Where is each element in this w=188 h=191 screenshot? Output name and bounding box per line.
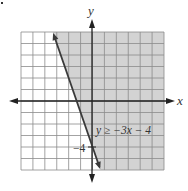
x-axis-label: x <box>176 93 183 108</box>
line-arrow-down-icon <box>95 161 101 169</box>
inequality-label: y ≥ −3x − 4 <box>95 124 151 137</box>
x-axis-arrow-left-icon <box>9 98 18 104</box>
y-axis-label: y <box>86 3 94 18</box>
inequality-graph: x y y ≥ −3x − 4 −4 <box>0 0 188 191</box>
y-axis-arrow-up-icon <box>89 19 95 28</box>
y-axis-arrow-down-icon <box>89 174 95 183</box>
corner-mark <box>1 2 3 4</box>
x-axis-arrow-right-icon <box>166 98 175 104</box>
y-intercept-label: −4 <box>73 142 85 154</box>
plot-canvas: x y y ≥ −3x − 4 −4 <box>0 0 188 191</box>
